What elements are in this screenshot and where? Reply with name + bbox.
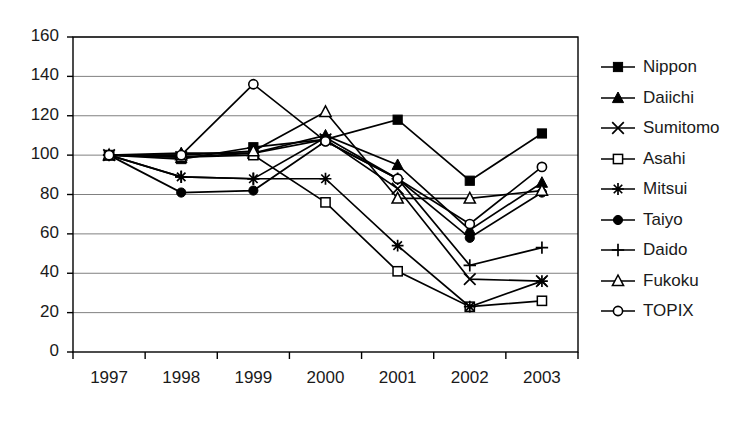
data-point [321, 198, 330, 207]
y-axis-label: 60 [17, 223, 59, 243]
legend-item-label: TOPIX [643, 301, 694, 321]
legend-marker-filled-triangle-icon [600, 88, 636, 108]
data-point [393, 115, 402, 124]
legend-symbol [613, 307, 622, 316]
data-point [320, 173, 332, 185]
data-point [536, 275, 548, 287]
data-point [537, 129, 546, 138]
chart-legend: NipponDaiichiSumitomoAsahiMitsuiTaiyoDai… [600, 52, 748, 327]
y-axis-label: 160 [17, 26, 59, 46]
data-point [177, 188, 186, 197]
y-axis-label: 20 [17, 302, 59, 322]
legend-item-label: Daiichi [643, 88, 694, 108]
data-point [537, 296, 546, 305]
legend-marker-filled-circle-icon [600, 210, 636, 230]
legend-item-label: Asahi [643, 149, 686, 169]
y-axis-label: 80 [17, 184, 59, 204]
x-axis-label: 2002 [434, 368, 506, 388]
legend-item-label: Fukoku [643, 271, 699, 291]
x-axis-label: 2000 [290, 368, 362, 388]
x-axis-label: 1999 [217, 368, 289, 388]
legend-item-label: Sumitomo [643, 118, 720, 138]
y-axis-label: 140 [17, 65, 59, 85]
x-axis-label: 2003 [506, 368, 578, 388]
data-point [464, 301, 476, 313]
data-point [320, 106, 331, 117]
y-axis-label: 100 [17, 144, 59, 164]
legend-symbol [613, 154, 622, 163]
legend-symbol [613, 63, 622, 72]
data-point [393, 267, 402, 276]
data-point [249, 186, 258, 195]
data-point [392, 240, 404, 252]
legend-item-nippon[interactable]: Nippon [600, 52, 748, 83]
legend-symbol [612, 244, 624, 256]
legend-marker-plus-icon [600, 240, 636, 260]
data-point [465, 176, 474, 185]
data-point [465, 233, 474, 242]
legend-item-label: Taiyo [643, 210, 683, 230]
legend-symbol [612, 183, 624, 195]
x-axis-label: 1997 [73, 368, 145, 388]
y-axis-label: 120 [17, 105, 59, 125]
legend-item-label: Mitsui [643, 179, 687, 199]
series-line [109, 139, 542, 281]
data-point [321, 137, 330, 146]
line-chart: 160140120100806040200 199719981999200020… [0, 0, 748, 437]
x-axis-label: 1998 [145, 368, 217, 388]
data-point [104, 151, 113, 160]
legend-marker-open-circle-icon [600, 301, 636, 321]
legend-item-taiyo[interactable]: Taiyo [600, 205, 748, 236]
legend-item-label: Nippon [643, 57, 697, 77]
legend-item-mitsui[interactable]: Mitsui [600, 174, 748, 205]
data-point [536, 241, 548, 253]
x-axis-label: 2001 [362, 368, 434, 388]
legend-item-daiichi[interactable]: Daiichi [600, 83, 748, 114]
legend-item-asahi[interactable]: Asahi [600, 144, 748, 175]
legend-item-topix[interactable]: TOPIX [600, 296, 748, 327]
legend-marker-open-triangle-icon [600, 271, 636, 291]
data-point [247, 173, 259, 185]
legend-item-daido[interactable]: Daido [600, 235, 748, 266]
y-axis-label: 40 [17, 262, 59, 282]
data-point [393, 174, 402, 183]
data-point [249, 80, 258, 89]
legend-marker-open-square-icon [600, 149, 636, 169]
data-point [537, 162, 546, 171]
data-point [175, 171, 187, 183]
legend-item-fukoku[interactable]: Fukoku [600, 266, 748, 297]
data-point [177, 151, 186, 160]
y-axis-label: 0 [17, 341, 59, 361]
legend-item-sumitomo[interactable]: Sumitomo [600, 113, 748, 144]
data-point [465, 219, 474, 228]
legend-item-label: Daido [643, 240, 687, 260]
legend-symbol [613, 215, 622, 224]
legend-marker-cross-icon [600, 118, 636, 138]
legend-marker-asterisk-icon [600, 179, 636, 199]
legend-marker-filled-square-icon [600, 57, 636, 77]
